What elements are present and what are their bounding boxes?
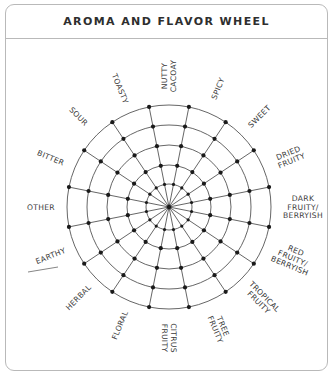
score-point[interactable]	[155, 266, 159, 270]
score-point[interactable]	[228, 217, 232, 221]
score-point[interactable]	[208, 197, 212, 201]
score-point[interactable]	[175, 164, 179, 168]
score-point[interactable]	[67, 185, 71, 189]
score-point[interactable]	[201, 153, 205, 157]
score-point[interactable]	[145, 201, 148, 204]
score-point[interactable]	[187, 193, 190, 196]
score-point[interactable]	[126, 197, 130, 201]
score-point[interactable]	[202, 182, 206, 186]
attribute-label-text: SWEET	[246, 103, 272, 129]
score-point[interactable]	[247, 189, 251, 193]
score-point[interactable]	[86, 189, 90, 193]
attribute-label-tropical-fruity: TROPICALFRUITY	[241, 279, 282, 320]
score-point[interactable]	[190, 210, 193, 213]
score-point[interactable]	[99, 159, 103, 163]
score-point[interactable]	[183, 285, 187, 289]
attribute-label-text: HERBAL	[64, 283, 93, 312]
score-point[interactable]	[267, 185, 271, 189]
score-point[interactable]	[218, 239, 222, 243]
score-point[interactable]	[151, 124, 155, 128]
score-point[interactable]	[147, 305, 151, 309]
score-point[interactable]	[267, 225, 271, 229]
score-point[interactable]	[228, 193, 232, 197]
score-point[interactable]	[155, 225, 158, 228]
attribute-label-nutty-cacoay: NUTTYCACOAY	[160, 60, 177, 93]
attribute-label-citrus-fruity: CITRUSFRUITY	[160, 323, 177, 353]
attribute-label-text: EARTHY	[34, 246, 67, 266]
score-point[interactable]	[121, 273, 125, 277]
score-point[interactable]	[202, 228, 206, 232]
attribute-label-earthy: EARTHY	[34, 246, 67, 266]
score-point[interactable]	[163, 183, 166, 186]
score-point[interactable]	[172, 183, 175, 186]
score-point[interactable]	[67, 225, 71, 229]
score-point[interactable]	[235, 159, 239, 163]
score-point[interactable]	[187, 105, 191, 109]
score-point[interactable]	[148, 218, 151, 221]
score-point[interactable]	[252, 262, 256, 266]
score-point[interactable]	[163, 228, 166, 231]
score-point[interactable]	[179, 144, 183, 148]
score-point[interactable]	[121, 137, 125, 141]
attribute-label-toasty: TOASTY	[109, 71, 130, 105]
score-point[interactable]	[247, 221, 251, 225]
score-point[interactable]	[148, 193, 151, 196]
score-point[interactable]	[190, 201, 193, 204]
score-point[interactable]	[212, 273, 216, 277]
score-point[interactable]	[190, 170, 194, 174]
score-point[interactable]	[99, 250, 103, 254]
score-point[interactable]	[175, 246, 179, 250]
score-point[interactable]	[155, 144, 159, 148]
attribute-label-bitter: BITTER	[36, 148, 66, 167]
score-point[interactable]	[110, 120, 114, 124]
score-point[interactable]	[132, 256, 136, 260]
score-point[interactable]	[132, 228, 136, 232]
attribute-label-text: FLORAL	[110, 309, 130, 341]
score-point[interactable]	[235, 250, 239, 254]
score-point[interactable]	[115, 170, 119, 174]
score-point[interactable]	[187, 218, 190, 221]
score-point[interactable]	[110, 290, 114, 294]
score-point[interactable]	[82, 262, 86, 266]
score-point[interactable]	[126, 213, 130, 217]
score-point[interactable]	[180, 225, 183, 228]
score-point[interactable]	[106, 193, 110, 197]
score-point[interactable]	[159, 164, 163, 168]
score-point[interactable]	[190, 240, 194, 244]
score-point[interactable]	[179, 266, 183, 270]
score-point[interactable]	[144, 170, 148, 174]
attribute-label-text: OTHER	[27, 203, 55, 212]
score-point[interactable]	[132, 182, 136, 186]
attribute-label-herbal: HERBAL	[64, 283, 93, 312]
score-point[interactable]	[224, 290, 228, 294]
score-point[interactable]	[187, 305, 191, 309]
score-point[interactable]	[159, 246, 163, 250]
flavor-wheel-diagram: SPICYSWEETDRIEDFRUITYDARKFRUITY/BERRYISH…	[0, 0, 330, 378]
center-point	[167, 205, 171, 209]
attribute-label-text: BERRYISH	[283, 211, 323, 220]
score-point[interactable]	[147, 105, 151, 109]
score-point[interactable]	[218, 170, 222, 174]
score-point[interactable]	[115, 239, 119, 243]
attribute-label-sweet: SWEET	[246, 103, 272, 129]
other-write-in-line[interactable]	[28, 267, 58, 272]
score-point[interactable]	[86, 221, 90, 225]
score-point[interactable]	[183, 124, 187, 128]
score-point[interactable]	[82, 148, 86, 152]
score-point[interactable]	[144, 240, 148, 244]
score-point[interactable]	[212, 137, 216, 141]
attribute-label-text: SPICY	[209, 76, 226, 101]
score-point[interactable]	[106, 217, 110, 221]
attribute-label-sour: SOUR	[67, 105, 90, 128]
attribute-label-text: BITTER	[36, 148, 66, 167]
score-point[interactable]	[132, 153, 136, 157]
score-point[interactable]	[208, 213, 212, 217]
score-point[interactable]	[224, 120, 228, 124]
score-point[interactable]	[145, 210, 148, 213]
score-point[interactable]	[201, 256, 205, 260]
score-point[interactable]	[155, 186, 158, 189]
score-point[interactable]	[252, 148, 256, 152]
score-point[interactable]	[172, 228, 175, 231]
score-point[interactable]	[151, 285, 155, 289]
score-point[interactable]	[180, 186, 183, 189]
